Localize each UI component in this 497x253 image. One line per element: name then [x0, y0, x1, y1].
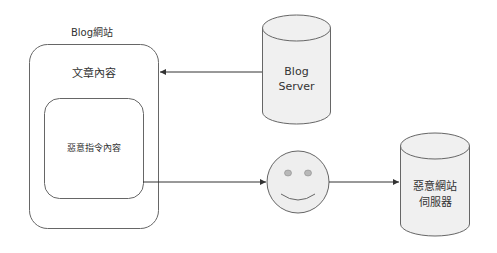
- malicious-server-label-line1: 惡意網站: [400, 177, 470, 193]
- article-content-label: 文章內容: [29, 64, 159, 80]
- blog-site-title: Blog網站: [62, 24, 122, 39]
- blog-server-label-line1: Blog: [262, 65, 331, 78]
- smiley-face-icon: [267, 151, 329, 213]
- malicious-command-label: 惡意指令內容: [44, 141, 144, 154]
- malicious-server-label-line2: 伺服器: [400, 193, 470, 209]
- blog-server-label-line2: Server: [262, 80, 331, 93]
